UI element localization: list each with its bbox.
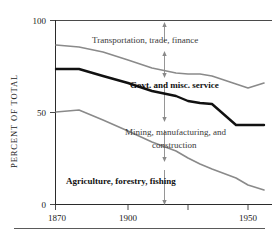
y-tick-label-50: 50 [37,108,47,118]
x-tick-label-1900: 1900 [119,213,138,223]
y-tick-label-0: 0 [42,200,47,210]
series-line-government [56,69,264,125]
chart-figure: PERCENT OF TOTAL 100 50 0 1870 1900 1950 [0,0,279,234]
series-label-government: Govt. and misc. service [130,80,219,90]
series-label-agriculture: Agriculture, forestry, fishing [66,176,176,186]
series-label-mining-line1: Mining, manufacturing, and [125,127,226,137]
y-tick-label-100: 100 [33,16,47,26]
series-label-mining-line2: construction [152,140,197,150]
x-tick-label-1870: 1870 [48,213,67,223]
line-chart: PERCENT OF TOTAL 100 50 0 1870 1900 1950 [0,0,279,234]
x-tick-label-1950: 1950 [239,213,258,223]
y-axis-title: PERCENT OF TOTAL [9,74,19,168]
series-label-transportation: Transportation, trade, finance [92,35,198,45]
